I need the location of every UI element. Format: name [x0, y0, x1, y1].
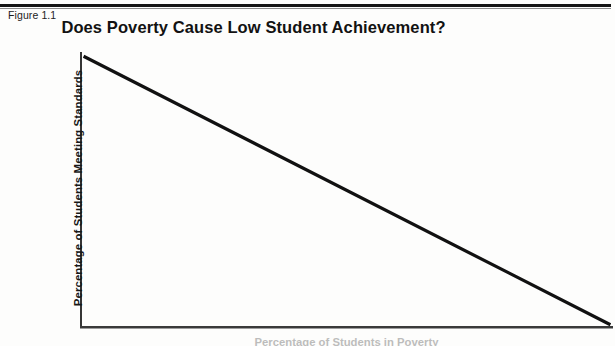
top-rule-thick [0, 4, 611, 7]
top-rule-hairline [0, 8, 611, 9]
trend-line-chart [0, 0, 615, 346]
chart-title: Does Poverty Cause Low Student Achieveme… [0, 18, 615, 37]
x-axis-hairline [80, 328, 613, 329]
figure-page: Figure 1.1 Does Poverty Cause Low Studen… [0, 0, 615, 346]
x-axis-label: Percentage of Students in Poverty [80, 336, 613, 346]
y-axis-label: Percentage of Students Meeting Standards [72, 48, 84, 328]
trend-line-series-achievement [85, 57, 609, 324]
